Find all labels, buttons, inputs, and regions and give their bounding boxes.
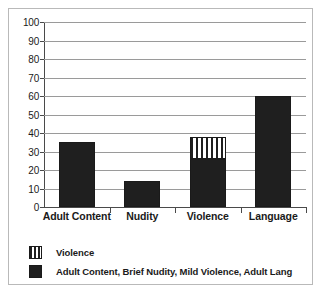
bar-segment[interactable] — [124, 181, 160, 207]
y-axis-tick-label: 10 — [28, 183, 39, 194]
chart-container: 1009080706050403020100 Adult ContentNudi… — [8, 8, 313, 285]
y-axis-tick-label: 100 — [23, 17, 39, 28]
y-axis-tick-label: 20 — [28, 165, 39, 176]
bar-segment[interactable] — [190, 137, 226, 159]
y-axis-tick-mark — [40, 152, 44, 153]
x-axis-tick-mark — [306, 207, 307, 213]
y-axis-tick-mark — [40, 78, 44, 79]
y-axis-tick-mark — [40, 189, 44, 190]
y-axis-tick-label: 80 — [28, 54, 39, 65]
y-axis-tick-mark — [40, 170, 44, 171]
x-axis-tick-label: Language — [249, 210, 298, 222]
striped-swatch — [29, 246, 42, 259]
bar-group[interactable] — [255, 22, 291, 207]
bar-group[interactable] — [190, 22, 226, 207]
y-axis-tick-mark — [40, 96, 44, 97]
y-axis-tick-label: 70 — [28, 72, 39, 83]
y-axis-tick-label: 50 — [28, 109, 39, 120]
legend-item: Violence — [29, 243, 292, 262]
solid-swatch — [29, 265, 42, 278]
legend-item-label: Violence — [56, 247, 94, 258]
y-axis-tick-label: 0 — [34, 202, 39, 213]
x-axis-tick-mark — [241, 207, 242, 213]
bar-segment[interactable] — [255, 96, 291, 207]
y-axis-tick-mark — [40, 41, 44, 42]
x-axis-tick-label: Nudity — [126, 210, 158, 222]
bar-segment[interactable] — [190, 159, 226, 207]
y-axis-tick-mark — [40, 59, 44, 60]
bar-group[interactable] — [124, 22, 160, 207]
plot-area: 1009080706050403020100 — [44, 22, 306, 207]
y-axis-tick-mark — [40, 133, 44, 134]
y-axis-tick-mark — [40, 207, 44, 208]
x-axis-tick-label: Adult Content — [43, 210, 111, 222]
bar-group[interactable] — [59, 22, 95, 207]
legend-item: Adult Content, Brief Nudity, Mild Violen… — [29, 262, 292, 281]
y-axis-tick-mark — [40, 115, 44, 116]
legend-item-label: Adult Content, Brief Nudity, Mild Violen… — [56, 266, 292, 277]
y-axis-tick-label: 30 — [28, 146, 39, 157]
x-axis-tick-label: Violence — [187, 210, 229, 222]
y-axis-tick-label: 90 — [28, 35, 39, 46]
x-axis-tick-mark — [175, 207, 176, 213]
y-axis-tick-mark — [40, 22, 44, 23]
y-axis-tick-label: 60 — [28, 91, 39, 102]
y-axis-tick-label: 40 — [28, 128, 39, 139]
bar-segment[interactable] — [59, 142, 95, 207]
chart-legend: Violence Adult Content, Brief Nudity, Mi… — [29, 243, 292, 281]
